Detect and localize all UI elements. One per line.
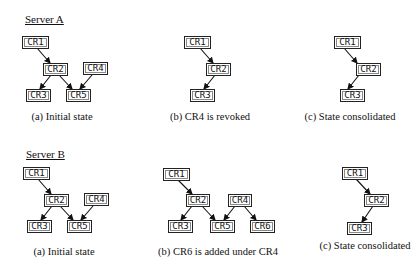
node-cr5: CR5 xyxy=(67,220,92,233)
node-cr2: CR2 xyxy=(186,194,210,207)
edge-cr2-cr5 xyxy=(59,75,72,89)
node-cr6: CR6 xyxy=(250,220,275,233)
node-cr2: CR2 xyxy=(356,63,381,76)
node-cr1: CR1 xyxy=(342,167,368,180)
edge-cr4-cr6 xyxy=(244,206,256,220)
caption-b-b: (b) CR6 is added under CR4 xyxy=(158,246,278,257)
edge-cr2-cr5 xyxy=(202,206,215,220)
node-cr5: CR5 xyxy=(210,220,235,233)
node-cr4: CR4 xyxy=(228,194,252,207)
edge-cr1-cr2 xyxy=(356,179,370,194)
node-cr5: CR5 xyxy=(66,89,91,102)
node-cr3: CR3 xyxy=(190,89,215,102)
edge-cr2-cr3 xyxy=(181,206,192,220)
caption-a-b: (b) CR4 is revoked xyxy=(170,111,250,122)
caption-b-c: (c) State consolidated xyxy=(320,240,411,251)
node-cr1: CR1 xyxy=(334,36,361,49)
edge-cr2-cr3 xyxy=(40,75,51,89)
edge-cr1-cr2 xyxy=(178,180,192,194)
node-cr2: CR2 xyxy=(206,63,231,76)
edge-cr1-cr2 xyxy=(344,48,357,63)
edge-cr2-cr5 xyxy=(60,206,73,220)
caption-a-c: (c) State consolidated xyxy=(305,111,396,122)
node-cr4: CR4 xyxy=(83,62,108,75)
node-cr2: CR2 xyxy=(44,194,69,207)
node-cr3: CR3 xyxy=(340,89,365,102)
caption-a-a: (a) Initial state xyxy=(31,111,92,122)
node-cr1: CR1 xyxy=(163,168,190,181)
node-cr3: CR3 xyxy=(347,222,372,235)
edge-cr2-cr3 xyxy=(204,75,215,89)
node-cr1: CR1 xyxy=(184,36,211,49)
server-a-label: Server A xyxy=(25,13,64,25)
node-cr1: CR1 xyxy=(23,167,50,180)
node-cr3: CR3 xyxy=(26,89,51,102)
node-cr1: CR1 xyxy=(22,36,49,49)
node-cr3: CR3 xyxy=(27,220,52,233)
node-cr2: CR2 xyxy=(43,63,68,76)
node-cr4: CR4 xyxy=(84,193,109,206)
edge-cr2-cr3 xyxy=(41,206,52,220)
node-cr2: CR2 xyxy=(364,194,389,207)
caption-b-a: (a) Initial state xyxy=(33,246,94,257)
edge-cr4-cr5 xyxy=(80,75,92,89)
edge-cr2-cr3 xyxy=(362,206,373,222)
edge-cr1-cr2 xyxy=(38,179,51,194)
edge-cr1-cr2 xyxy=(200,48,213,63)
edge-cr2-cr3 xyxy=(348,75,359,89)
server-b-label: Server B xyxy=(26,148,65,160)
node-cr3: CR3 xyxy=(168,220,193,233)
edge-cr4-cr5 xyxy=(81,206,93,220)
edge-cr4-cr5 xyxy=(224,206,235,220)
edge-cr1-cr2 xyxy=(37,48,50,63)
